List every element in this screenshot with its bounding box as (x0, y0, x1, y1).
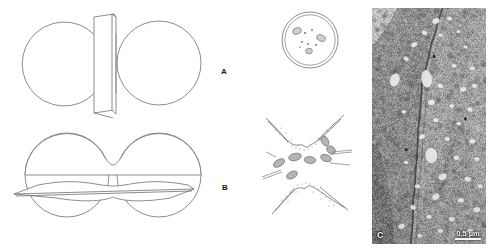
panel-b-cell-profile (262, 115, 352, 214)
panel-a-section-plane-face (94, 14, 114, 113)
scalebar-line (455, 238, 481, 240)
organelle (305, 48, 312, 54)
panel-label-b: B (222, 184, 228, 192)
panel-a-schematic (22, 14, 201, 118)
fibril-rod (266, 152, 276, 157)
fibril-rod (330, 163, 350, 165)
panel-a-left-sphere (22, 22, 100, 106)
panel-a-right-sphere (117, 21, 201, 105)
electron-micrograph-panel: C 0.5 µm (372, 8, 486, 244)
organelle-dot (311, 29, 313, 31)
organelle (288, 152, 302, 162)
panel-b-joined-upper-outline (25, 134, 201, 175)
membrane-upper-irregular (268, 119, 341, 147)
scientific-figure: .ln { fill:none; stroke:#6f6f6f; stroke-… (0, 0, 494, 251)
panel-a-section-plane-edge (112, 14, 116, 114)
organelle-dot (301, 41, 303, 43)
organelle (285, 169, 298, 180)
panel-a-cell-profile (282, 12, 338, 68)
membrane-stipple-upper (275, 122, 336, 150)
organelle-dot (315, 44, 317, 46)
organelle (304, 156, 316, 164)
organelle-dot (304, 32, 306, 34)
scalebar: 0.5 µm (455, 230, 481, 241)
micrograph-image (372, 8, 486, 244)
cell-arm-lower-right (320, 187, 348, 210)
cell-outer-wall (282, 12, 338, 68)
panel-b-schematic (14, 133, 201, 217)
organelle-dot (307, 43, 309, 45)
organelle (320, 153, 333, 163)
fibril-rod (262, 170, 282, 179)
organelle-dot (299, 46, 301, 48)
organelle (272, 157, 286, 169)
panel-label-c: C (377, 231, 384, 240)
scalebar-label: 0.5 µm (456, 230, 480, 238)
panel-label-a: A (221, 68, 227, 76)
cell-arm-upper-right (317, 115, 344, 141)
panel-a-plane-lower-stroke (94, 113, 113, 118)
